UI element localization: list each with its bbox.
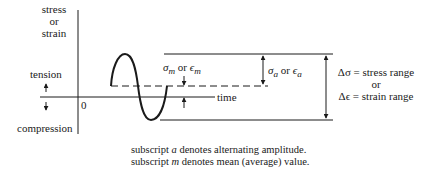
mean-or: or <box>175 61 190 73</box>
caption-line2-var: m <box>172 156 180 167</box>
amp-or: or <box>278 64 293 76</box>
stress-range-label: Δσ = stress range <box>333 66 419 78</box>
amp-epsilon-sub: a <box>297 69 302 79</box>
tension-label: tension <box>30 68 62 80</box>
caption-line1-post: denotes alternating amplitude. <box>177 144 306 155</box>
y-axis-label-line1: stress <box>34 3 74 15</box>
strain-range-label: Δϵ = strain range <box>333 90 419 102</box>
y-axis-label: stress or strain <box>34 3 74 39</box>
caption: subscript a denotes alternating amplitud… <box>131 144 309 168</box>
amplitude-label: σa or ϵa <box>268 64 302 80</box>
range-label: Δσ = stress range or Δϵ = strain range <box>333 66 419 102</box>
caption-line1-pre: subscript <box>131 144 172 155</box>
range-or-label: or <box>333 78 419 90</box>
y-axis-label-line2: or <box>34 15 74 27</box>
caption-line2-post: denotes mean (average) value. <box>179 156 309 167</box>
compression-label: compression <box>17 122 73 134</box>
caption-line2-pre: subscript <box>131 156 172 167</box>
time-label: time <box>217 91 237 103</box>
load-wave <box>111 54 167 120</box>
mean-label: σm or ϵm <box>163 61 201 77</box>
caption-line-1: subscript a denotes alternating amplitud… <box>131 144 309 156</box>
origin-label: 0 <box>81 99 87 111</box>
y-axis-label-line3: strain <box>34 27 74 39</box>
caption-line-2: subscript m denotes mean (average) value… <box>131 156 309 168</box>
mean-epsilon-sub: m <box>194 66 201 76</box>
